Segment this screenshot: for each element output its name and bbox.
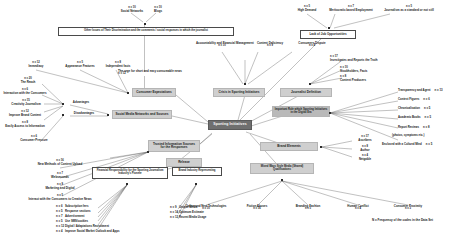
junction-crisis <box>244 83 246 85</box>
label-release: Release <box>178 160 190 164</box>
node-crisis-sporting-initiatives: Crisis in Sporting Initiatives <box>213 88 265 97</box>
node-creativity-journalism: n = 15 Creativity Journalism <box>6 100 46 106</box>
label-interaction-consumers: Interaction with the Consumers <box>3 91 46 95</box>
freq-short-news-urge: n = 12 <box>118 73 218 76</box>
junction-important-role <box>329 112 331 114</box>
junction-consumer <box>127 92 129 94</box>
node-independent-facts: n = 8 Independent facts <box>98 62 138 68</box>
label-content-producers: Content Producers <box>340 78 366 82</box>
label-interact-creative-news: Interact with the Consumers to Creative … <box>29 197 92 201</box>
node-chronicalisation: Chronicalisationn = 5 <box>398 107 430 110</box>
node-optimum-estimate: n = 14Optimum Estimate <box>170 211 204 214</box>
node-enclosed-cultural-mind: Enclosed with a Cultural Mindn = 5 <box>382 143 432 146</box>
freq-consumers-dispute: n = 4 <box>292 45 332 48</box>
label-disadvantages: Disadvantages <box>74 111 94 115</box>
label-photos-symptoms: (photos, symptoms etc.) <box>392 133 424 137</box>
freq-branding-fashion: n = 5 <box>286 208 330 211</box>
node-social-media-networks: Social Media Networks and Sources <box>112 110 172 119</box>
label-academic-books: Academic Books <box>398 115 421 119</box>
node-release: Release <box>166 158 202 167</box>
label-creativity-journalism: Creativity Journalism <box>11 102 40 106</box>
label-important-role: Important Role which Sporting Initiative… <box>275 108 327 114</box>
node-consumer-pressure: n = 6 Consumer Pressure <box>14 136 54 142</box>
junction-journalist <box>309 83 311 85</box>
node-photos-symptoms: (photos, symptoms etc.) <box>392 134 424 137</box>
node-content-producers: n = 8 Content Producers <box>340 76 382 82</box>
label-author: Author <box>360 148 369 152</box>
node-transparency-agent: Transparency and Agentn = 13 <box>398 89 443 92</box>
freq-content-deficiency: n = 9 <box>250 45 290 48</box>
junction-statement <box>144 23 146 25</box>
node-ascribers: n = 17 Ascribers <box>352 136 378 142</box>
node-disadvantages: Disadvantages <box>68 112 100 115</box>
node-improve-social-market: n = 4Improve Social Market Outlook and A… <box>56 230 119 233</box>
label-lack-of-job-opportunities: Lack of Job Opportunities <box>309 32 346 36</box>
label-crisis-sporting-initiatives: Crisis in Sporting Initiatives <box>219 90 260 94</box>
node-subscription-fees: n = 6Subscription fees <box>56 205 88 208</box>
label-netgable: Netgable <box>359 157 371 161</box>
node-brand-industry-representing: Brand Industry Representing <box>172 167 222 176</box>
label-marketing-digital: Marketing and Digital <box>45 186 74 190</box>
node-lack-of-job-opportunities: Lack of Job Opportunities <box>300 30 356 39</box>
freq-academic-books: n = 5 <box>425 115 431 119</box>
node-response-sections: n = 5Response sections <box>56 210 91 213</box>
label-immediacy: Immediacy <box>29 64 44 68</box>
node-author: n = 8 Author <box>352 146 378 152</box>
junction-lack-jobs <box>328 27 330 29</box>
node-advertisement: n = 7Advertisement <box>56 215 84 218</box>
freq-optimum-estimate: n = 14 <box>170 211 179 214</box>
freq-consumer-proximity: n = 3 <box>384 208 432 211</box>
freq-response-sections: n = 5 <box>56 210 65 213</box>
node-human-conflict: Human Conflict n = 4 <box>338 205 378 211</box>
label-appearance-features: Appearance Features <box>65 64 94 68</box>
label-discrimination-statement: Other Issues of Their Discrimination and… <box>84 29 208 32</box>
label-improve-brand-content: Improve Brand Content <box>9 113 41 117</box>
node-interact-creative-news: n = 5 Interact with the Consumers to Cre… <box>28 195 92 201</box>
node-branding-fashion: Branding Fashion n = 5 <box>286 205 330 211</box>
node-consumer-proximity: Consumer Proximity n = 3 <box>384 205 432 211</box>
label-response-sections: Response sections <box>65 209 91 213</box>
label-new-methods-upload: New Methods of Content Upload <box>38 162 82 166</box>
junction-brand-elements <box>320 146 322 148</box>
node-blogs: n = 10 Blogs <box>146 7 170 13</box>
node-mixed-ways-media: Mixed Ways Style Media (Shared) Qualific… <box>250 163 314 174</box>
node-appearance-features: n = 5 Appearance Features <box>58 62 102 68</box>
label-brand-industry-representing: Brand Industry Representing <box>178 169 215 172</box>
label-social-networks: Social Networks <box>121 9 143 13</box>
node-financial-responsibility: Financial Responsibility for the Sportin… <box>92 167 168 179</box>
label-recent-media-usage: Recent Media Usage <box>179 215 206 219</box>
node-consumer-expectations: Consumer Expectations <box>132 88 176 97</box>
legend-caption: N = Frequency of the codes in the Data S… <box>372 218 433 222</box>
node-new-methods-upload: n = 16 New Methods of Content Upload <box>32 160 88 166</box>
freq-report-reviews: n = 8 <box>423 125 429 129</box>
node-trusted-sources: Trusted Information Sources for the Resp… <box>148 140 200 152</box>
node-fiction-abuses: Fiction Abuses n = 16 <box>236 205 278 211</box>
freq-online-new-technologies: n = 10 <box>176 208 236 211</box>
diagram-canvas: n = 10 Social Networks n = 10 Blogs Othe… <box>0 0 462 243</box>
node-social-networks: n = 10 Social Networks <box>114 7 150 13</box>
label-the-reach: The Reach <box>21 80 36 84</box>
junction-advantages <box>62 103 64 105</box>
label-journalist-definition: Journalist Definition <box>291 90 321 94</box>
freq-enclosed-cultural-mind: n = 5 <box>426 142 432 146</box>
node-high-demand: n = 5 High Demand <box>290 6 324 12</box>
node-stockholders-facts: n = 10 Stockholders, Facts <box>340 67 384 73</box>
label-enclosed-cultural-mind: Enclosed with a Cultural Mind <box>382 142 422 146</box>
freq-subscription-fees: n = 6 <box>56 205 65 208</box>
node-netgable: n = 4 Netgable <box>352 155 378 161</box>
freq-use-sms-cookies: n = 5 <box>56 220 65 223</box>
node-academic-books: Academic Booksn = 5 <box>398 116 431 119</box>
node-content-deficiency: Content Deficiency n = 9 <box>250 42 290 48</box>
freq-transparency-agent: n = 13 <box>435 88 443 92</box>
junction-social-media <box>107 114 109 116</box>
junction-brand-industry <box>195 183 197 185</box>
label-chronicalisation: Chronicalisation <box>398 106 420 110</box>
node-discrimination-statement: Other Issues of Their Discrimination and… <box>58 27 234 36</box>
node-journalist-definition: Journalist Definition <box>280 88 332 97</box>
label-report-reviews: Report Reviews <box>398 125 419 129</box>
node-online-new-technologies: Online and New Technologies n = 10 <box>176 205 236 211</box>
junction-disadvantages <box>62 114 64 116</box>
label-brand-elements: Brand Elements <box>277 144 301 148</box>
label-high-demand: High Demand <box>298 8 317 12</box>
node-advantages: Advantages <box>68 101 94 104</box>
